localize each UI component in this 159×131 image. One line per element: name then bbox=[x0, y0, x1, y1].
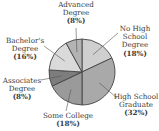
label-high-school-graduate: High School Graduate (32%) bbox=[113, 93, 159, 118]
pie-slices bbox=[49, 39, 115, 105]
label-percent: (8%) bbox=[55, 17, 97, 25]
label-percent: (8%) bbox=[0, 93, 44, 101]
label-bachelors-degree: Bachelor's Degree (16%) bbox=[2, 37, 48, 62]
label-percent: (32%) bbox=[113, 109, 159, 117]
label-percent: (18%) bbox=[38, 120, 98, 128]
label-percent: (16%) bbox=[2, 53, 48, 61]
label-advanced-degree: Advanced Degree (8%) bbox=[55, 1, 97, 26]
label-associates-degree: Associates Degree (8%) bbox=[0, 77, 44, 102]
pie-chart: Advanced Degree (8%) No High School Degr… bbox=[0, 0, 159, 131]
label-no-high-school-degree: No High School Degree (18%) bbox=[114, 25, 156, 58]
label-percent: (18%) bbox=[114, 50, 156, 58]
label-some-college: Some College (18%) bbox=[38, 112, 98, 128]
